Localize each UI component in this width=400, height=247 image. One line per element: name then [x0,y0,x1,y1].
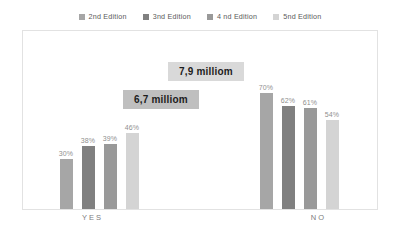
bar-value-label: 62% [281,97,296,104]
bar-rect[interactable] [282,106,295,209]
bar-rect[interactable] [326,120,339,209]
legend-item-5nd-edition[interactable]: 5nd Edition [273,12,321,21]
bar-rect[interactable] [126,133,139,209]
bar-slot[interactable]: 70% [260,31,273,209]
bar-rect[interactable] [260,93,273,209]
legend-label: 2nd Edition [89,12,127,21]
bar-value-label: 46% [125,124,140,131]
legend-swatch-icon [207,14,213,20]
chart-legend: 2nd Edition 3nd Edition 4 nd Edition 5nd… [0,12,400,21]
axis-label-no: NO [311,213,326,222]
plot-area: 30% 38% 39% 46% 70% 62% [22,30,378,210]
bar-value-label: 38% [81,137,96,144]
bar-slot[interactable]: 62% [282,31,295,209]
annotation-callout-bottom: 6,7 milliom [123,90,199,109]
legend-item-4nd-edition[interactable]: 4 nd Edition [207,12,257,21]
legend-swatch-icon [273,14,279,20]
bar-value-label: 30% [59,150,74,157]
bar-slot[interactable]: 61% [304,31,317,209]
bar-value-label: 39% [103,135,118,142]
legend-swatch-icon [79,14,85,20]
annotation-callout-top: 7,9 milliom [168,62,244,81]
bar-value-label: 70% [259,84,274,91]
category-axis: YES NO [22,213,378,233]
legend-swatch-icon [143,14,149,20]
bar-group-no: 70% 62% 61% 54% [239,31,359,209]
bar-slot[interactable]: 39% [104,31,117,209]
legend-label: 3nd Edition [153,12,191,21]
bar-rect[interactable] [104,144,117,209]
bar-slot[interactable]: 54% [326,31,339,209]
bar-slot[interactable]: 38% [82,31,95,209]
bar-slot[interactable]: 46% [126,31,139,209]
legend-item-2nd-edition[interactable]: 2nd Edition [79,12,127,21]
bar-slot[interactable]: 30% [60,31,73,209]
bar-value-label: 54% [325,111,340,118]
bar-chart: 2nd Edition 3nd Edition 4 nd Edition 5nd… [0,0,400,247]
bar-rect[interactable] [60,159,73,209]
legend-item-3nd-edition[interactable]: 3nd Edition [143,12,191,21]
bar-rect[interactable] [304,108,317,209]
axis-label-yes: YES [82,213,103,222]
legend-label: 5nd Edition [283,12,321,21]
bar-value-label: 61% [303,99,318,106]
bar-rect[interactable] [82,146,95,209]
bar-group-yes: 30% 38% 39% 46% [39,31,159,209]
legend-label: 4 nd Edition [217,12,257,21]
